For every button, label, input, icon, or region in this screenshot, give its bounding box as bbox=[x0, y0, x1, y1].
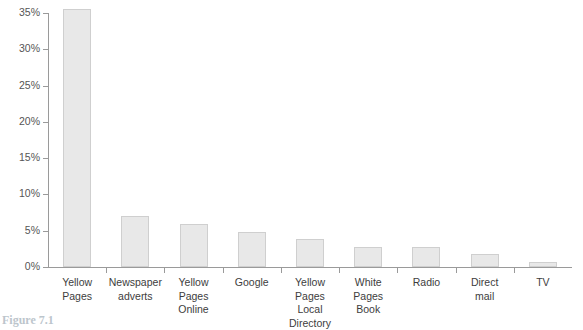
x-axis-tick-mark bbox=[164, 268, 165, 273]
bar bbox=[354, 247, 382, 267]
bar bbox=[296, 239, 324, 267]
y-axis-tick-mark bbox=[43, 194, 48, 195]
bar bbox=[180, 224, 208, 267]
x-axis-category-label: Yellow Pages bbox=[48, 276, 106, 303]
bar bbox=[238, 232, 266, 267]
plot-area: 0%5%10%15%20%25%30%35% Yellow PagesNewsp… bbox=[48, 6, 573, 268]
x-axis-tick-mark bbox=[397, 268, 398, 273]
y-axis-tick-mark bbox=[43, 267, 48, 268]
figure-caption-number: Figure 7.1 bbox=[2, 313, 54, 327]
x-axis-category-label: Newspaper adverts bbox=[106, 276, 164, 303]
bar bbox=[121, 216, 149, 267]
bar bbox=[471, 254, 499, 267]
bar bbox=[412, 247, 440, 267]
y-axis-line bbox=[48, 13, 49, 267]
y-axis-tick-label: 35% bbox=[19, 6, 40, 19]
y-axis-tick-mark bbox=[43, 13, 48, 14]
x-axis-tick-mark bbox=[223, 268, 224, 273]
y-axis-tick-label: 20% bbox=[19, 115, 40, 128]
y-axis-tick-label: 15% bbox=[19, 151, 40, 164]
x-axis-tick-mark bbox=[339, 268, 340, 273]
y-axis-tick-mark bbox=[43, 231, 48, 232]
y-axis-tick-mark bbox=[43, 122, 48, 123]
x-axis-tick-mark bbox=[281, 268, 282, 273]
y-axis-tick-mark bbox=[43, 158, 48, 159]
x-axis-category-label: Direct mail bbox=[456, 276, 514, 303]
bar bbox=[529, 262, 557, 267]
y-axis-tick-label: 25% bbox=[19, 79, 40, 92]
y-axis-tick-mark bbox=[43, 86, 48, 87]
x-axis-category-label: Yellow Pages Online bbox=[164, 276, 222, 317]
x-axis-category-label: White Pages Book bbox=[339, 276, 397, 317]
figure-caption: Figure 7.1 bbox=[2, 313, 54, 328]
y-axis-tick-mark bbox=[43, 49, 48, 50]
y-axis-tick-label: 10% bbox=[19, 187, 40, 200]
bar bbox=[63, 9, 91, 267]
x-axis-category-label: Radio bbox=[397, 276, 455, 290]
x-axis-tick-mark bbox=[456, 268, 457, 273]
y-axis-tick-label: 30% bbox=[19, 42, 40, 55]
y-axis-tick-label: 5% bbox=[25, 224, 40, 237]
x-axis-tick-mark bbox=[106, 268, 107, 273]
x-axis-line bbox=[48, 267, 572, 268]
y-axis-tick-label: 0% bbox=[25, 260, 40, 273]
x-axis-category-label: Google bbox=[223, 276, 281, 290]
x-axis-tick-mark bbox=[514, 268, 515, 273]
x-axis-category-label: Yellow Pages Local Directory bbox=[281, 276, 339, 330]
x-axis-category-label: TV bbox=[514, 276, 572, 290]
